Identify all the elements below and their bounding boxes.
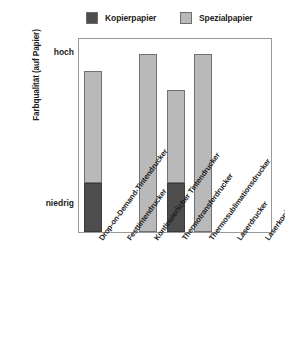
legend-swatch-spezialpapier — [180, 12, 192, 24]
bar-segment-1-lower — [84, 183, 102, 232]
bar-segment-4-upper — [167, 90, 185, 183]
y-axis-title: Farbqualität (auf Papier) — [32, 5, 46, 145]
y-tick-high: hoch — [22, 47, 74, 57]
y-tick-low: niedrig — [18, 198, 74, 208]
bar-segment-1-upper — [84, 71, 102, 183]
x-axis-labels: Drop-on-Demand-TintendruckerFesttintendr… — [0, 233, 285, 349]
legend-label-kopierpapier: Kopierpapier — [105, 13, 156, 23]
legend-label-spezialpapier: Spezialpapier — [199, 13, 253, 23]
legend-item-kopierpapier: Kopierpapier — [86, 10, 156, 26]
legend-item-spezialpapier: Spezialpapier — [180, 10, 253, 26]
bar-1 — [84, 71, 102, 232]
bar-chart: Kopierpapier Spezialpapier Farbqualität … — [0, 0, 285, 349]
legend-swatch-kopierpapier — [86, 12, 98, 24]
